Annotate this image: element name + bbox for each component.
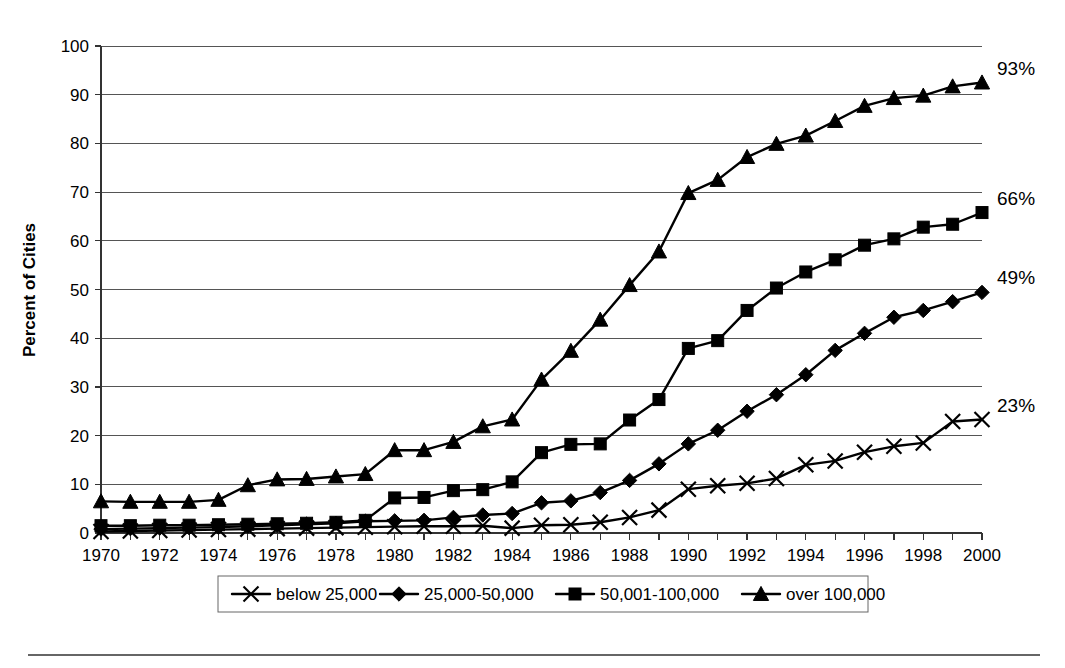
series-path: [101, 83, 982, 502]
data-point-diamond-marker: [593, 485, 607, 499]
data-point-square-marker: [859, 239, 871, 251]
y-axis-tick-labels: 0102030405060708090100: [61, 37, 101, 543]
data-point-square-marker: [800, 266, 812, 278]
legend-label: over 100,000: [786, 585, 885, 604]
legend-label: below 25,000: [276, 585, 377, 604]
x-axis-tick-labels: 1970197219741976197819801982198419861988…: [82, 546, 1001, 565]
data-point-triangle-marker: [446, 434, 461, 448]
data-point-square-marker: [183, 519, 195, 531]
data-point-square-marker: [271, 518, 283, 530]
data-point-square-marker: [770, 282, 782, 294]
data-point-diamond-marker: [564, 494, 578, 508]
data-point-square-marker: [301, 517, 313, 529]
data-point-square-marker: [359, 514, 371, 526]
y-tick-label: 100: [61, 37, 89, 56]
data-point-square-marker: [594, 438, 606, 450]
data-point-diamond-marker: [681, 437, 695, 451]
data-point-triangle-marker: [798, 128, 813, 142]
data-point-triangle-marker: [828, 113, 843, 127]
data-point-square-marker: [418, 491, 430, 503]
data-point-square-marker: [330, 516, 342, 528]
x-tick-label: 1978: [317, 546, 355, 565]
y-tick-label: 20: [70, 427, 89, 446]
x-tick-label: 1990: [669, 546, 707, 565]
data-point-square-marker: [712, 335, 724, 347]
data-point-diamond-marker: [945, 294, 959, 308]
x-tick-label: 1986: [552, 546, 590, 565]
series-end-label: 23%: [997, 395, 1035, 416]
series-2: [94, 285, 989, 536]
data-point-diamond-marker: [505, 506, 519, 520]
data-point-square-marker: [212, 519, 224, 531]
data-point-triangle-marker: [739, 149, 754, 163]
data-point-diamond-marker: [769, 387, 783, 401]
x-axis-ticks: [101, 533, 982, 540]
x-tick-label: 1984: [493, 546, 531, 565]
data-point-diamond-marker: [652, 457, 666, 471]
data-point-diamond-marker: [975, 285, 989, 299]
y-tick-label: 50: [70, 281, 89, 300]
data-point-square-marker: [653, 394, 665, 406]
legend-marker-square: [569, 588, 581, 600]
data-point-square-marker: [624, 414, 636, 426]
series-path: [101, 420, 982, 532]
x-tick-label: 1972: [141, 546, 179, 565]
data-point-diamond-marker: [740, 404, 754, 418]
data-point-square-marker: [565, 438, 577, 450]
x-tick-label: 1974: [200, 546, 238, 565]
x-tick-label: 1992: [728, 546, 766, 565]
legend-label: 25,000-50,000: [424, 585, 534, 604]
data-point-square-marker: [506, 476, 518, 488]
x-tick-label: 1994: [787, 546, 825, 565]
series-end-label: 66%: [997, 188, 1035, 209]
series-4: [93, 75, 989, 508]
data-point-square-marker: [976, 207, 988, 219]
data-point-square-marker: [477, 484, 489, 496]
end-value-labels: 23%49%66%93%: [997, 58, 1035, 416]
x-tick-label: 1970: [82, 546, 120, 565]
y-tick-label: 90: [70, 86, 89, 105]
y-tick-label: 60: [70, 232, 89, 251]
legend-label: 50,001-100,000: [600, 585, 719, 604]
data-point-square-marker: [95, 520, 107, 532]
x-tick-label: 1996: [846, 546, 884, 565]
series-end-label: 49%: [997, 267, 1035, 288]
x-tick-label: 1982: [434, 546, 472, 565]
data-point-triangle-marker: [651, 244, 666, 258]
series-end-label: 93%: [997, 58, 1035, 79]
data-point-square-marker: [888, 233, 900, 245]
data-point-square-marker: [741, 304, 753, 316]
data-point-square-marker: [947, 218, 959, 230]
data-point-square-marker: [829, 254, 841, 266]
chart-legend[interactable]: below 25,00025,000-50,00050,001-100,000o…: [218, 576, 885, 612]
series-1: [94, 412, 990, 539]
data-point-diamond-marker: [916, 303, 930, 317]
x-tick-label: 1988: [611, 546, 649, 565]
data-point-square-marker: [389, 492, 401, 504]
gridlines: [101, 46, 982, 484]
data-point-square-marker: [536, 447, 548, 459]
data-point-triangle-marker: [974, 75, 989, 89]
y-tick-label: 30: [70, 378, 89, 397]
series-3: [95, 207, 988, 532]
data-point-diamond-marker: [887, 310, 901, 324]
data-point-square-marker: [682, 342, 694, 354]
y-tick-label: 0: [80, 524, 89, 543]
y-tick-label: 40: [70, 329, 89, 348]
x-tick-label: 1976: [258, 546, 296, 565]
line-chart: 0102030405060708090100 19701972197419761…: [0, 0, 1065, 668]
data-point-square-marker: [242, 518, 254, 530]
y-axis-title: Percent of Cities: [20, 223, 39, 357]
data-point-square-marker: [447, 485, 459, 497]
data-point-diamond-marker: [622, 473, 636, 487]
y-tick-label: 70: [70, 183, 89, 202]
series-path: [101, 213, 982, 526]
data-point-square-marker: [124, 520, 136, 532]
data-series: [93, 75, 989, 539]
chart-container: 0102030405060708090100 19701972197419761…: [0, 0, 1065, 668]
x-tick-label: 1980: [376, 546, 414, 565]
data-point-square-marker: [154, 519, 166, 531]
data-point-diamond-marker: [534, 496, 548, 510]
y-tick-label: 80: [70, 134, 89, 153]
y-tick-label: 10: [70, 475, 89, 494]
